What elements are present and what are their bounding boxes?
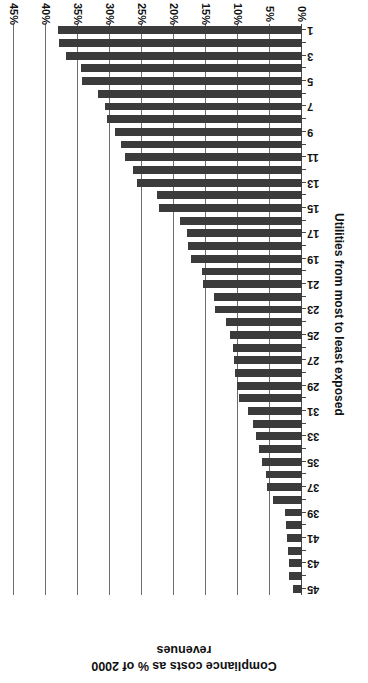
category-tick-label: 23 — [307, 304, 319, 315]
category-tick-mark — [302, 321, 306, 322]
value-axis-title-line1: Compliance costs as % of 2000 — [0, 657, 368, 673]
category-tick-mark — [302, 359, 306, 360]
category-tick-label: 15 — [307, 203, 319, 214]
category-tick-label: 3 — [307, 50, 313, 61]
category-tick-mark — [302, 562, 306, 563]
category-tick-label: 27 — [307, 355, 319, 366]
value-tick-label: 0% — [296, 6, 308, 22]
value-tick-label: 10% — [232, 3, 244, 25]
category-tick-label: 31 — [307, 406, 319, 417]
category-tick-mark — [302, 169, 306, 170]
category-tick-mark — [302, 410, 306, 411]
value-tick-label: 25% — [136, 3, 148, 25]
category-tick-mark — [302, 423, 306, 424]
bar-chart: Compliance costs as % of 2000 revenues U… — [0, 0, 368, 683]
category-tick-mark — [302, 131, 306, 132]
category-tick-mark — [302, 258, 306, 259]
category-tick-mark — [302, 144, 306, 145]
category-tick-mark — [302, 42, 306, 43]
category-tick-mark — [302, 105, 306, 106]
category-tick-label: 13 — [307, 177, 319, 188]
category-tick-mark — [302, 397, 306, 398]
category-tick-mark — [302, 29, 306, 30]
category-tick-mark — [302, 435, 306, 436]
category-tick-mark — [302, 486, 306, 487]
category-tick-mark — [302, 67, 306, 68]
category-tick-mark — [302, 347, 306, 348]
category-tick-mark — [302, 80, 306, 81]
category-tick-label: 33 — [307, 431, 319, 442]
category-tick-mark — [302, 245, 306, 246]
category-tick-mark — [302, 220, 306, 221]
category-tick-label: 35 — [307, 456, 319, 467]
category-axis-title: Utilities from most to least exposed — [332, 213, 346, 416]
category-tick-mark — [302, 461, 306, 462]
category-tick-mark — [302, 524, 306, 525]
chart-figure-rotator: Compliance costs as % of 2000 revenues U… — [0, 0, 368, 683]
category-tick-label: 9 — [307, 126, 313, 137]
category-tick-mark — [302, 55, 306, 56]
category-tick-mark — [302, 207, 306, 208]
category-tick-mark — [302, 334, 306, 335]
category-tick-mark — [302, 283, 306, 284]
value-tick-label: 30% — [104, 3, 116, 25]
category-tick-label: 29 — [307, 380, 319, 391]
category-tick-mark — [302, 182, 306, 183]
category-tick-mark — [302, 156, 306, 157]
gridline-40% — [45, 24, 46, 595]
axis-ticks: 0%5%10%15%20%25%30%35%40%45%135791113151… — [58, 24, 302, 595]
value-tick-label: 15% — [200, 3, 212, 25]
category-tick-mark — [302, 550, 306, 551]
value-tick-label: 5% — [264, 6, 276, 22]
category-tick-label: 7 — [307, 101, 313, 112]
category-tick-label: 1 — [307, 25, 313, 36]
category-tick-label: 21 — [307, 279, 319, 290]
category-tick-label: 5 — [307, 76, 313, 87]
category-tick-mark — [302, 575, 306, 576]
category-tick-mark — [302, 588, 306, 589]
category-tick-mark — [302, 118, 306, 119]
category-tick-label: 45 — [307, 583, 319, 594]
category-tick-mark — [302, 512, 306, 513]
category-tick-label: 39 — [307, 507, 319, 518]
plot-area: 0%5%10%15%20%25%30%35%40%45%135791113151… — [58, 24, 302, 595]
category-tick-label: 17 — [307, 228, 319, 239]
value-axis-title-line2: revenues — [0, 642, 368, 658]
category-tick-mark — [302, 270, 306, 271]
category-tick-mark — [302, 309, 306, 310]
value-tick-label: 40% — [40, 3, 52, 25]
category-tick-mark — [302, 232, 306, 233]
category-tick-label: 43 — [307, 558, 319, 569]
category-tick-mark — [302, 537, 306, 538]
value-tick-label: 20% — [168, 3, 180, 25]
category-tick-mark — [302, 372, 306, 373]
category-tick-label: 25 — [307, 329, 319, 340]
gridline-45% — [13, 24, 14, 595]
category-tick-label: 19 — [307, 253, 319, 264]
category-tick-mark — [302, 448, 306, 449]
category-tick-mark — [302, 296, 306, 297]
category-tick-mark — [302, 385, 306, 386]
category-tick-mark — [302, 194, 306, 195]
category-tick-mark — [302, 473, 306, 474]
value-tick-label: 45% — [8, 3, 20, 25]
category-tick-mark — [302, 93, 306, 94]
value-tick-label: 35% — [72, 3, 84, 25]
value-axis-title: Compliance costs as % of 2000 revenues — [0, 642, 368, 673]
category-tick-mark — [302, 499, 306, 500]
category-tick-label: 37 — [307, 482, 319, 493]
category-tick-label: 11 — [307, 152, 319, 163]
category-tick-label: 41 — [307, 532, 319, 543]
